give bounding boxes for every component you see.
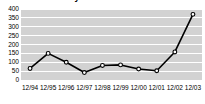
chart-title: Net Income History: [1, 0, 79, 2]
x-axis-tick-label: 12/94: [22, 84, 38, 92]
data-point-marker: [119, 63, 123, 67]
x-axis-tick-label: 12/95: [40, 84, 56, 92]
data-point-marker: [28, 67, 32, 71]
data-point-marker: [46, 51, 50, 55]
data-point-marker: [101, 64, 105, 68]
y-axis-tick-label: 400: [0, 6, 19, 12]
x-axis: 12/9412/9512/9612/9712/9812/9912/0012/01…: [21, 84, 202, 96]
data-point-marker: [173, 50, 177, 54]
y-axis-tick-label: 350: [0, 15, 19, 21]
y-axis-tick-label: 50: [0, 68, 19, 74]
y-axis: 400350300250200150100500: [0, 9, 19, 80]
x-axis-tick-label: 12/98: [94, 84, 110, 92]
y-axis-tick-label: 100: [0, 59, 19, 65]
series-line: [30, 14, 193, 72]
data-point-marker: [64, 60, 68, 64]
y-axis-tick-label: 300: [0, 24, 19, 30]
chart-container: Net Income History 400350300250200150100…: [0, 0, 205, 104]
data-point-marker: [191, 12, 195, 16]
x-axis-tick-label: 12/99: [112, 84, 128, 92]
y-axis-tick-label: 150: [0, 50, 19, 56]
y-axis-tick-label: 0: [0, 77, 19, 83]
line-series: [21, 9, 202, 80]
data-point-marker: [137, 67, 141, 71]
x-axis-tick-label: 12/02: [167, 84, 183, 92]
x-axis-tick-label: 12/97: [76, 84, 92, 92]
x-axis-tick-label: 12/03: [185, 84, 201, 92]
y-axis-tick-label: 200: [0, 42, 19, 48]
data-point-marker: [82, 71, 86, 75]
y-axis-tick-label: 250: [0, 33, 19, 39]
x-axis-tick-label: 12/96: [58, 84, 74, 92]
data-point-marker: [155, 69, 159, 73]
x-axis-tick-label: 12/01: [149, 84, 165, 92]
x-axis-tick-label: 12/00: [131, 84, 147, 92]
plot-area: [21, 9, 202, 80]
